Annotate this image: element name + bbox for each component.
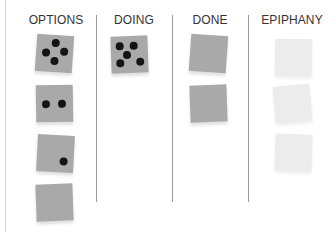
dot (50, 57, 59, 66)
card-four-dots[interactable] (35, 34, 74, 73)
dot (130, 42, 138, 50)
column-divider (248, 15, 249, 202)
dot (59, 157, 67, 165)
dot (116, 42, 124, 50)
card-two-dots[interactable] (36, 85, 74, 123)
left-edge-line (5, 0, 6, 232)
column-header-epiphany: EPIPHANY (254, 13, 330, 27)
dot (42, 48, 51, 57)
column-header-done: DONE (172, 13, 248, 27)
column-header-doing: DOING (96, 13, 172, 27)
column-divider (172, 15, 173, 202)
dot (58, 100, 66, 108)
dot (51, 39, 60, 48)
dot (60, 47, 69, 56)
card-blank[interactable] (189, 34, 228, 73)
card-faded[interactable] (272, 83, 312, 123)
card-one-dot[interactable] (36, 134, 75, 173)
card-faded[interactable] (274, 133, 312, 171)
column-divider (96, 15, 97, 202)
card-blank[interactable] (35, 183, 73, 221)
card-five-dots[interactable] (110, 35, 148, 73)
column-header-options: OPTIONS (18, 13, 94, 27)
card-blank[interactable] (189, 84, 227, 122)
dot (42, 100, 50, 108)
dot (136, 57, 144, 65)
card-faded[interactable] (275, 39, 313, 77)
dot (123, 51, 131, 59)
dot (116, 59, 124, 67)
